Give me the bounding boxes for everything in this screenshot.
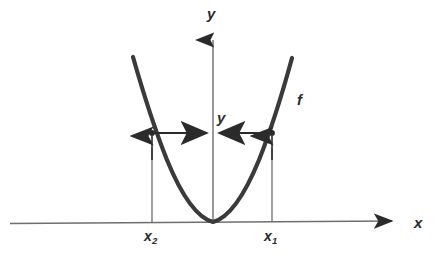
tick-label-x2-subscript: 2 bbox=[152, 235, 157, 246]
point-x1-marker bbox=[269, 130, 275, 136]
tick-label-x1-subscript: 1 bbox=[272, 235, 277, 246]
x-axis bbox=[10, 221, 392, 224]
figure-canvas bbox=[0, 0, 435, 254]
tick-label-x2-base: x bbox=[144, 228, 152, 244]
tick-label-x1: x1 bbox=[264, 229, 277, 245]
gap-value-label: y bbox=[217, 110, 225, 125]
point-x2-marker bbox=[149, 130, 155, 136]
curve-label-f: f bbox=[297, 92, 302, 107]
parabola-figure: y x f y x2 x1 bbox=[0, 0, 435, 254]
x-axis-label: x bbox=[414, 215, 422, 230]
x-axis-line bbox=[10, 221, 392, 224]
tick-label-x1-base: x bbox=[264, 228, 272, 244]
y-axis-label: y bbox=[207, 6, 215, 21]
tick-label-x2: x2 bbox=[144, 229, 157, 245]
